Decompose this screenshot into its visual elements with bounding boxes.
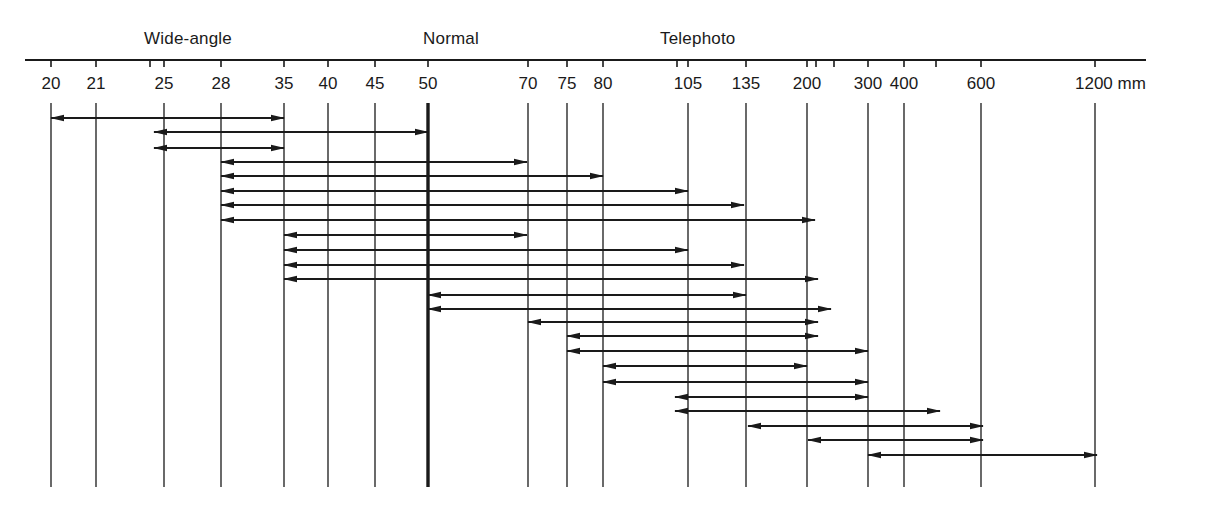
- tick-label-35: 35: [275, 74, 294, 94]
- tick-label-105: 105: [674, 74, 702, 94]
- tick-label-135: 135: [732, 74, 760, 94]
- category-label-normal: Normal: [423, 29, 479, 49]
- tick-label-45: 45: [366, 74, 385, 94]
- tick-label-600: 600: [967, 74, 995, 94]
- tick-label-75: 75: [558, 74, 577, 94]
- focal-length-axis: [25, 60, 1146, 67]
- tick-label-80: 80: [594, 74, 613, 94]
- category-label-wide-angle: Wide-angle: [144, 29, 232, 49]
- tick-label-1200: 1200 mm: [1075, 74, 1146, 94]
- tick-label-300: 300: [854, 74, 882, 94]
- tick-label-70: 70: [519, 74, 538, 94]
- zoom-range-arrows: [51, 118, 1097, 455]
- tick-label-25: 25: [155, 74, 174, 94]
- category-label-telephoto: Telephoto: [660, 29, 736, 49]
- tick-label-200: 200: [793, 74, 821, 94]
- tick-label-50: 50: [419, 74, 438, 94]
- tick-label-20: 20: [42, 74, 61, 94]
- tick-label-21: 21: [87, 74, 106, 94]
- tick-label-400: 400: [890, 74, 918, 94]
- tick-label-40: 40: [319, 74, 338, 94]
- tick-label-28: 28: [212, 74, 231, 94]
